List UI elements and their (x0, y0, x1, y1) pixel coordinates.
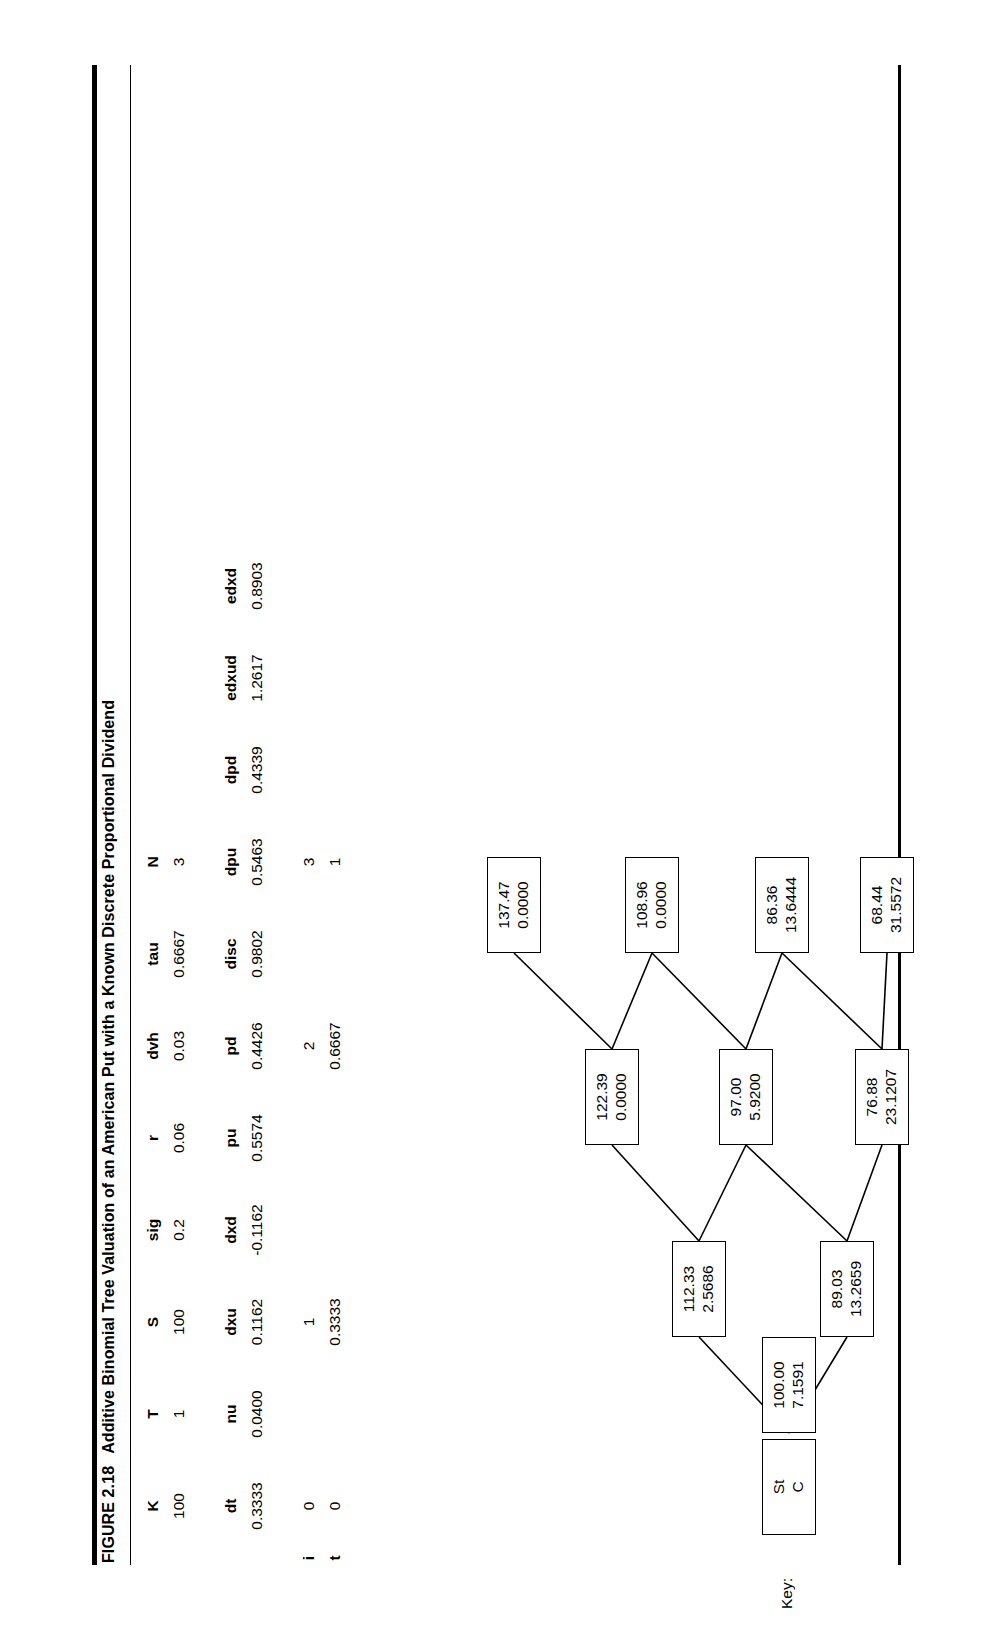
figure-number: FIGURE 2.18 (100, 1466, 117, 1563)
key-label: Key: (778, 1578, 796, 1609)
node-st: 76.88 (863, 1078, 882, 1117)
rotated-page: FIGURE 2.18Additive Binomial Tree Valuat… (0, 0, 992, 1627)
param-value-edxd: 0.8903 (248, 541, 266, 631)
node-c: 0.0000 (652, 881, 671, 928)
figure-top-rule (92, 65, 97, 1565)
tree-node-2-2: 76.88 23.1207 (855, 1049, 909, 1145)
param-value-sig: 0.2 (170, 1185, 188, 1275)
tree-node-3-2: 86.36 13.6444 (755, 857, 809, 953)
param-value-disc: 0.9802 (248, 909, 266, 999)
param-header-r: r (144, 1093, 162, 1183)
param-value-edxud: 1.2617 (248, 633, 266, 723)
key-line-c: C (789, 1481, 808, 1492)
figure-bottom-rule (898, 65, 901, 1565)
param-header-K: K (144, 1461, 162, 1551)
param-value-K: 100 (170, 1461, 188, 1551)
index-value-1: 1 (300, 1277, 318, 1367)
param-value-dxd: -0.1162 (248, 1185, 266, 1275)
node-st: 86.36 (763, 886, 782, 925)
figure-block: FIGURE 2.18Additive Binomial Tree Valuat… (92, 65, 902, 1565)
key-box: St C (762, 1439, 816, 1535)
param-header-nu: nu (222, 1369, 240, 1459)
node-c: 23.1207 (882, 1069, 901, 1125)
node-st: 100.00 (770, 1361, 789, 1408)
param-value-dt: 0.3333 (248, 1461, 266, 1551)
tree-node-1-1: 89.03 13.2659 (820, 1241, 874, 1337)
param-header-dvh: dvh (144, 1001, 162, 1091)
param-value-T: 1 (170, 1369, 188, 1459)
node-st: 122.39 (593, 1073, 612, 1120)
param-header-dpd: dpd (222, 725, 240, 815)
node-c: 7.1591 (789, 1361, 808, 1408)
param-header-tau: tau (144, 909, 162, 999)
node-c: 2.5686 (699, 1265, 718, 1312)
param-header-N: N (144, 817, 162, 907)
param-header-pd: pd (222, 1001, 240, 1091)
param-value-tau: 0.6667 (170, 909, 188, 999)
param-header-dt: dt (222, 1461, 240, 1551)
param-value-dpu: 0.5463 (248, 817, 266, 907)
node-c: 0.0000 (612, 1073, 631, 1120)
param-value-dxu: 0.1162 (248, 1277, 266, 1367)
tree-node-3-3: 68.44 31.5572 (860, 857, 914, 953)
node-st: 68.44 (868, 886, 887, 925)
param-header-edxd: edxd (222, 541, 240, 631)
index-value-2: 2 (300, 1001, 318, 1091)
node-st: 97.00 (727, 1078, 746, 1117)
tree-node-3-1: 108.96 0.0000 (625, 857, 679, 953)
node-st: 89.03 (828, 1270, 847, 1309)
binomial-tree: Key: St C 100.00 7.1591 112.33 2.5686 89… (342, 65, 898, 1565)
tree-node-3-0: 137.47 0.0000 (487, 857, 541, 953)
param-header-dxd: dxd (222, 1185, 240, 1275)
param-header-T: T (144, 1369, 162, 1459)
param-value-nu: 0.0400 (248, 1369, 266, 1459)
param-value-dvh: 0.03 (170, 1001, 188, 1091)
node-c: 31.5572 (887, 877, 906, 933)
node-c: 0.0000 (514, 881, 533, 928)
parameter-table: K T S sig r dvh tau N 100 1 100 0.2 0.06… (144, 251, 354, 1551)
node-c: 13.2659 (847, 1261, 866, 1317)
node-st: 112.33 (680, 1266, 699, 1312)
param-value-N: 3 (170, 817, 188, 907)
param-value-S: 100 (170, 1277, 188, 1367)
param-header-dpu: dpu (222, 817, 240, 907)
tree-node-2-0: 122.39 0.0000 (585, 1049, 639, 1145)
tree-node-2-1: 97.00 5.9200 (719, 1049, 773, 1145)
node-st: 108.96 (633, 881, 652, 928)
node-st: 137.47 (495, 881, 514, 928)
node-c: 13.6444 (782, 877, 801, 933)
param-header-sig: sig (144, 1185, 162, 1275)
index-value-0: 0 (300, 1461, 318, 1551)
tree-node-0-0: 100.00 7.1591 (762, 1337, 816, 1433)
param-value-r: 0.06 (170, 1093, 188, 1183)
tree-node-1-0: 112.33 2.5686 (672, 1241, 726, 1337)
figure-caption-rule (130, 65, 131, 1565)
index-value-3: 3 (300, 817, 318, 907)
param-value-pu: 0.5574 (248, 1093, 266, 1183)
key-line-st: St (770, 1480, 789, 1495)
param-header-S: S (144, 1277, 162, 1367)
param-header-pu: pu (222, 1093, 240, 1183)
param-header-disc: disc (222, 909, 240, 999)
param-header-dxu: dxu (222, 1277, 240, 1367)
param-header-edxud: edxud (222, 633, 240, 723)
param-value-dpd: 0.4339 (248, 725, 266, 815)
node-c: 5.9200 (746, 1073, 765, 1120)
figure-title: Additive Binomial Tree Valuation of an A… (100, 700, 117, 1454)
figure-caption: FIGURE 2.18Additive Binomial Tree Valuat… (100, 700, 118, 1563)
param-value-pd: 0.4426 (248, 1001, 266, 1091)
